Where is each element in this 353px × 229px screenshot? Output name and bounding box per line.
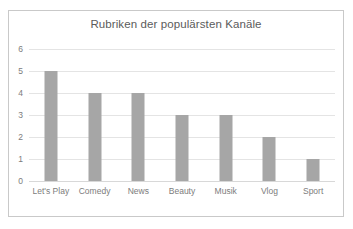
bar-slot: [73, 49, 117, 181]
x-axis-tick-label: Comedy: [79, 187, 111, 196]
bar[interactable]: [132, 93, 145, 181]
bar[interactable]: [175, 115, 188, 181]
bar-slot: [29, 49, 73, 181]
bar[interactable]: [88, 93, 101, 181]
chart-frame: Rubriken der populärsten Kanäle 0123456 …: [8, 10, 344, 217]
bar-slot: [160, 49, 204, 181]
bar-slot: [204, 49, 248, 181]
x-axis-ticks: Let's PlayComedyNewsBeautyMusikVlogSport: [29, 187, 335, 203]
gridline: [29, 181, 335, 182]
x-axis-tick-label: Vlog: [261, 187, 278, 196]
y-axis-tick-label: 4: [18, 89, 23, 98]
y-axis-tick-label: 5: [18, 67, 23, 76]
bar-slot: [116, 49, 160, 181]
bar-slot: [248, 49, 292, 181]
y-axis-tick-label: 6: [18, 45, 23, 54]
x-axis-tick-label: Beauty: [169, 187, 195, 196]
bar-series: [29, 49, 335, 181]
y-axis-tick-label: 3: [18, 111, 23, 120]
y-axis-tick-label: 1: [18, 155, 23, 164]
bar[interactable]: [307, 159, 320, 181]
bar[interactable]: [44, 71, 57, 181]
y-axis-tick-label: 0: [18, 177, 23, 186]
plot-area: 0123456: [29, 49, 335, 181]
chart-title: Rubriken der populärsten Kanäle: [9, 18, 343, 30]
y-axis-tick-label: 2: [18, 133, 23, 142]
bar[interactable]: [263, 137, 276, 181]
bar-slot: [291, 49, 335, 181]
bar[interactable]: [219, 115, 232, 181]
x-axis-tick-label: News: [128, 187, 149, 196]
x-axis-tick-label: Let's Play: [33, 187, 70, 196]
x-axis-tick-label: Sport: [303, 187, 323, 196]
x-axis-tick-label: Musik: [215, 187, 237, 196]
